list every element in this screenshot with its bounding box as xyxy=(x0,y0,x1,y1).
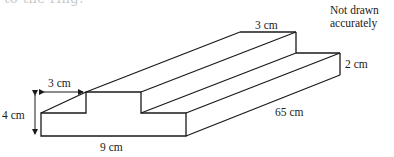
label-length: 65 cm xyxy=(275,106,303,118)
front-face xyxy=(41,92,186,136)
edge-right-bottom xyxy=(186,75,340,136)
label-height-total: 4 cm xyxy=(2,109,25,121)
label-step-width-front: 3 cm xyxy=(48,77,71,89)
label-step-width-back: 3 cm xyxy=(255,19,278,31)
edge-left-top xyxy=(41,92,86,113)
label-base-width: 9 cm xyxy=(100,141,123,153)
label-step-height: 2 cm xyxy=(345,58,368,70)
prism-diagram: 3 cm 3 cm 4 cm 2 cm 9 cm 65 cm xyxy=(0,0,394,157)
edge-right-top xyxy=(186,53,340,113)
